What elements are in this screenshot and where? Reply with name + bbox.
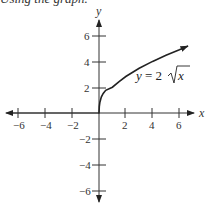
x-tick-label: 6	[176, 119, 182, 131]
y-axis-label: y	[95, 4, 102, 18]
x-axis-label: x	[198, 106, 205, 120]
y-tick-label: −6	[79, 185, 91, 197]
x-tick-label: 4	[149, 119, 155, 131]
svg-text:y = 2: y = 2	[134, 68, 162, 83]
y-tick-label: −2	[79, 133, 91, 145]
x-tick-label: −2	[67, 119, 79, 131]
y-tick-label: 2	[84, 82, 90, 94]
equation-radicand: x	[177, 68, 184, 83]
y-tick-label: 6	[84, 30, 90, 42]
x-tick-label: −4	[40, 119, 52, 131]
equation-label: y = 2 x	[134, 66, 190, 83]
x-tick-label: −6	[13, 119, 25, 131]
x-tick-label: 2	[122, 119, 128, 131]
y-tick-label: −4	[79, 159, 91, 171]
y-tick-label: 4	[84, 56, 90, 68]
function-graph: −6 −4 −2 2 4 6 6 4 2 −2 −4 −6 y x y = 2 …	[0, 0, 206, 204]
